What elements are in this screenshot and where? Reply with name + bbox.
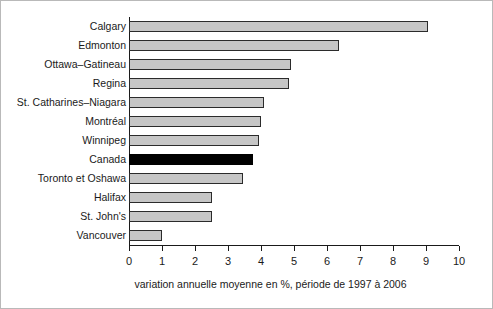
- bar-canada: [129, 154, 253, 165]
- x-tick-label: 8: [378, 254, 408, 268]
- bar-ottawa-gatineau: [129, 59, 291, 70]
- category-label: St. Catharines–Niagara: [17, 93, 126, 112]
- category-label: Canada: [89, 150, 126, 169]
- bar-toronto-et-oshawa: [129, 173, 243, 184]
- chart-figure: CalgaryEdmontonOttawa–GatineauReginaSt. …: [0, 0, 493, 309]
- x-tick-label: 2: [180, 254, 210, 268]
- x-tick-label: 5: [279, 254, 309, 268]
- bar-calgary: [129, 21, 428, 32]
- x-tick-label: 9: [411, 254, 441, 268]
- category-label: Winnipeg: [82, 131, 126, 150]
- bar-montr-al: [129, 116, 261, 127]
- category-label: Regina: [93, 74, 126, 93]
- x-tick-label: 0: [114, 254, 144, 268]
- x-tick: [327, 246, 328, 251]
- x-tick: [459, 246, 460, 251]
- bar-st-catharines-niagara: [129, 97, 264, 108]
- category-label: Vancouver: [77, 226, 126, 245]
- x-tick: [195, 246, 196, 251]
- x-tick-label: 7: [345, 254, 375, 268]
- x-tick: [261, 246, 262, 251]
- x-tick: [129, 246, 130, 251]
- bar-regina: [129, 78, 289, 89]
- category-label: Montréal: [85, 112, 126, 131]
- x-tick: [162, 246, 163, 251]
- x-tick: [360, 246, 361, 251]
- category-label: Halifax: [94, 188, 126, 207]
- category-label: Ottawa–Gatineau: [44, 55, 126, 74]
- bar-vancouver: [129, 230, 162, 241]
- x-tick-label: 4: [246, 254, 276, 268]
- x-tick: [294, 246, 295, 251]
- x-tick-label: 3: [213, 254, 243, 268]
- bar-halifax: [129, 192, 212, 203]
- bar-winnipeg: [129, 135, 259, 146]
- category-label: Edmonton: [78, 36, 126, 55]
- x-tick: [426, 246, 427, 251]
- x-axis-caption: variation annuelle moyenne en %, période…: [1, 278, 492, 290]
- x-tick: [228, 246, 229, 251]
- x-tick-label: 10: [444, 254, 474, 268]
- category-label: Toronto et Oshawa: [38, 169, 126, 188]
- x-tick: [393, 246, 394, 251]
- category-label: St. John's: [80, 207, 126, 226]
- category-label: Calgary: [90, 17, 126, 36]
- bar-st-john-s: [129, 211, 212, 222]
- x-tick-label: 6: [312, 254, 342, 268]
- x-tick-label: 1: [147, 254, 177, 268]
- bar-edmonton: [129, 40, 339, 51]
